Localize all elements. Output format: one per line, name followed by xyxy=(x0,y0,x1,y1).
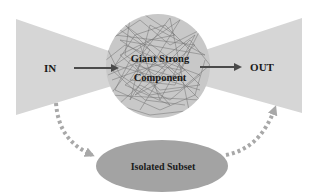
core-label-line2: Component xyxy=(134,72,187,83)
bowtie-diagram: Giant Strong Component IN OUT Isolated S… xyxy=(0,0,316,194)
in-label: IN xyxy=(44,62,56,74)
isolated-to-out-dotted-arrow xyxy=(226,108,275,155)
in-to-isolated-dotted-arrow xyxy=(56,103,92,155)
giant-strong-component: Giant Strong Component xyxy=(106,14,210,118)
out-label: OUT xyxy=(250,61,275,73)
isolated-label: Isolated Subset xyxy=(131,161,196,172)
isolated-subset: Isolated Subset xyxy=(96,140,228,192)
core-label-line1: Giant Strong xyxy=(131,53,190,64)
